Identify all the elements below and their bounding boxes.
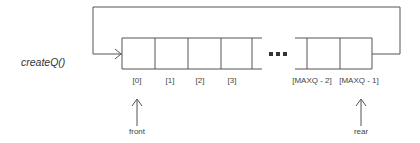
index-label-2: [2] [196, 76, 205, 85]
index-label-maxq-2: [MAXQ - 2] [292, 76, 332, 85]
circular-queue-diagram [0, 0, 420, 143]
ellipsis-icon [269, 52, 287, 56]
wraparound-connector [93, 7, 400, 54]
rear-pointer-label: rear [354, 127, 368, 136]
index-label-1: [1] [166, 76, 175, 85]
front-pointer-label: front [129, 127, 145, 136]
index-label-0: [0] [133, 76, 142, 85]
index-label-maxq-1: [MAXQ - 1] [339, 76, 379, 85]
index-label-3: [3] [228, 76, 237, 85]
